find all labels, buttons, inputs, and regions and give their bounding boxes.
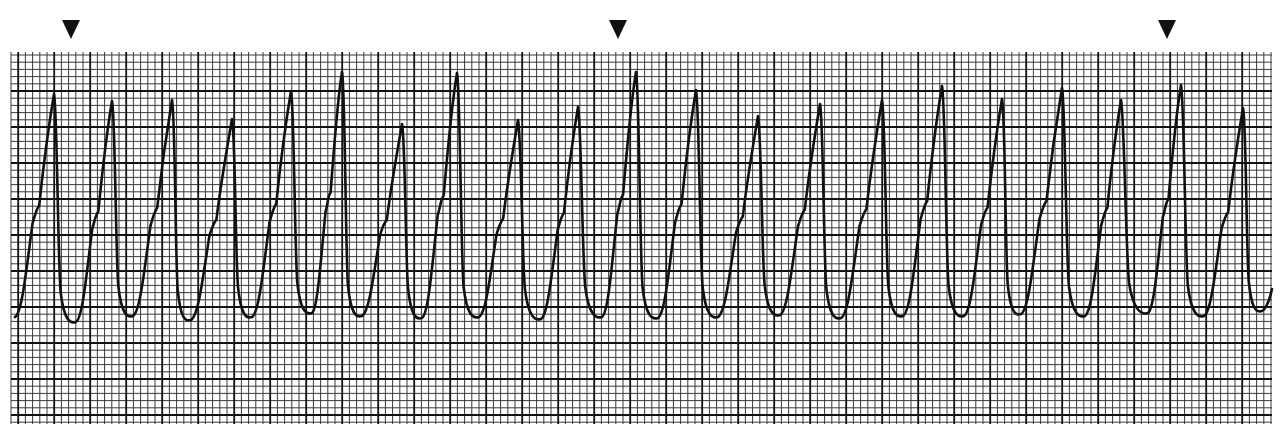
ecg-rhythm-strip: [0, 0, 1280, 438]
